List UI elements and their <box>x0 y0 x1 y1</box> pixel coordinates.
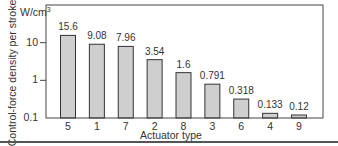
bar-4 <box>263 113 278 118</box>
y-ticks <box>40 43 46 81</box>
x-axis-title: Actuator type <box>140 129 202 141</box>
chart: Control-force density per stroke W/cm3 1… <box>0 0 338 146</box>
bar-value-label: 3.54 <box>135 46 175 57</box>
y-tick-label: 1 <box>8 73 38 85</box>
bar-value-label: 0.318 <box>221 85 261 96</box>
bar-5 <box>61 35 76 118</box>
x-category-label: 9 <box>289 120 309 132</box>
y-tick-label: 10 <box>8 36 38 48</box>
x-category-label: 5 <box>58 120 78 132</box>
x-category-label: 6 <box>231 120 251 132</box>
x-category-label: 3 <box>202 120 222 132</box>
x-category-label: 7 <box>116 120 136 132</box>
bar-6 <box>234 99 249 118</box>
y-tick-label: 0.1 <box>8 111 38 123</box>
bar-value-label: 0.12 <box>279 101 319 112</box>
bar-1 <box>89 44 104 118</box>
bar-value-label: 7.96 <box>106 32 146 43</box>
bar-value-label: 1.6 <box>164 59 204 70</box>
bar-value-label: 0.791 <box>192 70 232 81</box>
x-category-label: 4 <box>260 120 280 132</box>
x-category-label: 1 <box>87 120 107 132</box>
bar-2 <box>147 60 162 118</box>
bar-7 <box>118 46 133 118</box>
bar-3 <box>205 84 220 118</box>
bar-8 <box>176 73 191 118</box>
bottom-rule <box>0 141 338 143</box>
